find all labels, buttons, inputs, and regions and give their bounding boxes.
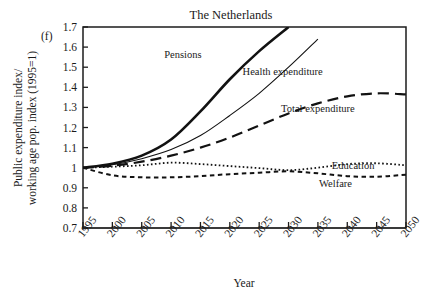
curve-pensions: [83, 27, 289, 168]
x-tick-label: 2040: [339, 214, 363, 240]
figure-container: 0.70.80.911.11.21.31.41.51.61.7 19952000…: [0, 0, 435, 294]
curve-label-welfare: Welfare: [319, 178, 352, 189]
y-tick-label: 1.7: [63, 21, 78, 33]
chart-svg: 0.70.80.911.11.21.31.41.51.61.7 19952000…: [0, 0, 435, 294]
plot-border: [83, 27, 406, 228]
curve-label-education: Education: [332, 160, 375, 171]
x-tick-label: 2025: [251, 214, 275, 240]
x-tick-label: 2045: [369, 214, 393, 240]
x-tick-label: 2005: [134, 214, 158, 240]
y-axis-label-line2: working age pop. index (1995=1): [26, 51, 39, 206]
x-axis-ticks: 1995200020052010201520202025203020352040…: [75, 214, 422, 240]
x-tick-label: 2020: [222, 214, 246, 240]
y-tick-label: 0.9: [63, 182, 78, 194]
y-tick-label: 1.3: [63, 101, 78, 113]
curve-label-total-expenditure: Total expenditure: [281, 103, 355, 114]
y-tick-label: 0.8: [63, 202, 78, 214]
y-tick-label: 1.2: [63, 122, 78, 134]
plot-frame: [82, 27, 406, 228]
x-tick-label: 2030: [281, 214, 305, 240]
y-tick-label: 1: [71, 162, 77, 174]
panel-label: (f): [41, 30, 53, 43]
x-tick-label: 2035: [310, 214, 334, 240]
y-axis-label-line1: Public expenditure index/: [12, 68, 25, 187]
curve-label-pensions: Pensions: [164, 49, 201, 60]
curve-labels: PensionsHealth expenditureTotal expendit…: [164, 49, 375, 189]
x-tick-label: 1995: [75, 214, 99, 240]
x-tick-label: 2000: [104, 214, 128, 240]
data-curves: [83, 27, 406, 178]
x-tick-label: 2050: [398, 214, 422, 240]
y-tick-label: 1.1: [63, 142, 78, 154]
x-tick-label: 2010: [163, 214, 187, 240]
y-tick-label: 1.4: [63, 81, 78, 93]
x-axis-label: Year: [233, 277, 254, 289]
y-axis-ticks: 0.70.80.911.11.21.31.41.51.61.7: [63, 21, 88, 234]
x-tick-label: 2015: [193, 214, 217, 240]
chart-title: The Netherlands: [190, 8, 273, 22]
curve-label-health-expenditure: Health expenditure: [243, 66, 324, 77]
y-tick-label: 1.5: [63, 61, 78, 73]
y-tick-label: 1.6: [63, 41, 78, 53]
